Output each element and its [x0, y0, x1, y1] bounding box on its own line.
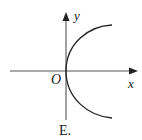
graph-figure: y O x E. — [0, 0, 142, 140]
option-label: E. — [59, 124, 71, 138]
origin-label: O — [51, 73, 61, 87]
graph-canvas — [0, 0, 142, 140]
y-axis-label: y — [74, 9, 80, 22]
x-axis-arrow-icon — [129, 68, 138, 75]
y-axis-arrow-icon — [63, 12, 70, 21]
x-axis-label: x — [128, 77, 134, 90]
